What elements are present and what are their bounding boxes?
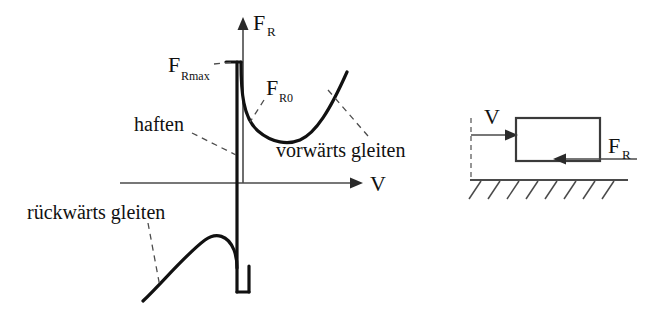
friction-figure: F R V F Rmax F R0 haften vorwärts gleite… xyxy=(0,0,659,323)
annotation-fr0: F xyxy=(266,75,278,100)
annotation-haften: haften xyxy=(134,113,184,135)
velocity-label: V xyxy=(484,104,500,129)
leader-fr0 xyxy=(250,100,264,122)
annotation-frmax: F xyxy=(168,52,180,77)
leader-rueckwaerts-gleiten xyxy=(148,223,160,287)
y-axis-label-subscript: R xyxy=(267,24,276,39)
x-axis-arrowhead xyxy=(350,178,363,189)
annotation-vorwaerts-gleiten: vorwärts gleiten xyxy=(276,139,405,162)
free-body-diagram: F R V xyxy=(469,104,637,199)
annotation-fr0-subscript: R0 xyxy=(279,91,293,105)
x-axis-label: V xyxy=(370,171,386,196)
annotation-rueckwaerts-gleiten: rückwärts gleiten xyxy=(27,201,165,224)
annotation-frmax-subscript: Rmax xyxy=(181,69,210,83)
block-rectangle xyxy=(516,118,600,161)
figure-canvas: F R V F Rmax F R0 haften vorwärts gleite… xyxy=(0,0,659,323)
friction-arrow-head xyxy=(553,154,566,165)
friction-chart: F R V F Rmax F R0 haften vorwärts gleite… xyxy=(27,10,405,301)
ground-hatching xyxy=(469,181,614,199)
curve-vorwaerts-gleiten xyxy=(241,62,347,143)
y-axis-label: F xyxy=(253,10,265,35)
y-axis-arrowhead xyxy=(238,17,249,30)
leader-haften xyxy=(192,133,236,155)
friction-label: F xyxy=(608,133,620,158)
friction-label-subscript: R xyxy=(622,147,631,162)
